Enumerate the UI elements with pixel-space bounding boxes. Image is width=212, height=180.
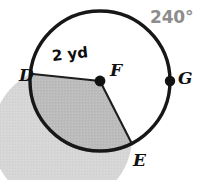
point-label-D: D (19, 67, 34, 84)
circle-diagram-figure: D F G E 240° 2 yd (0, 0, 212, 180)
arc-angle-label: 240° (150, 9, 193, 26)
center-point-marker-F (95, 76, 106, 87)
point-label-E: E (133, 152, 146, 169)
point-label-F: F (110, 62, 122, 79)
radius-measure-label: 2 yd (51, 45, 89, 64)
point-label-G: G (178, 70, 193, 87)
circle-diagram-svg (0, 0, 212, 180)
point-marker-G (165, 76, 175, 86)
